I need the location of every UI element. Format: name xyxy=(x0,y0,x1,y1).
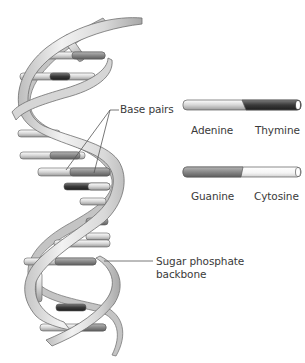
legend-cytosine-label: Cytosine xyxy=(254,190,299,203)
front-strand xyxy=(12,18,142,346)
legend-adenine-label: Adenine xyxy=(191,124,233,137)
dna-helix-illustration xyxy=(0,0,305,363)
legend-guanine-label: Guanine xyxy=(191,190,234,203)
base-pairs-label: Base pairs xyxy=(120,103,174,116)
dna-diagram: Base pairs Sugar phosphate backbone Aden… xyxy=(0,0,305,363)
backbone-label-line1: Sugar phosphate xyxy=(156,255,244,268)
guanine-cytosine-rod xyxy=(183,167,301,177)
legend-thymine-label: Thymine xyxy=(255,124,300,137)
adenine-thymine-rod xyxy=(183,100,301,110)
backbone-label-line2: backbone xyxy=(156,268,206,281)
